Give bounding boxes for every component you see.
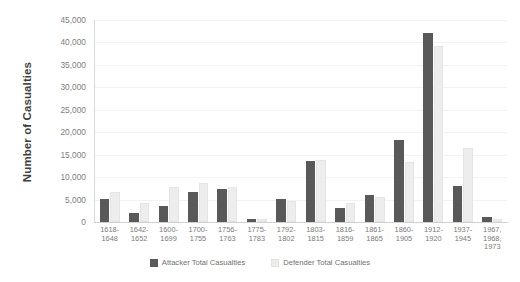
bar-defender[interactable] — [375, 197, 385, 222]
x-axis-tick-label: 1967, 1968, 1973 — [478, 226, 507, 252]
y-axis-tick-label: 25,000 — [0, 106, 86, 114]
attacker-swatch — [150, 259, 158, 267]
casualties-bar-chart: Number of Casualties 45,00040,00035,0003… — [0, 0, 520, 282]
x-axis-tick-label: 1860- 1905 — [389, 226, 418, 243]
bar-defender[interactable] — [463, 148, 473, 223]
bar-defender[interactable] — [110, 192, 120, 222]
y-axis-tick-label: 40,000 — [0, 38, 86, 46]
x-axis-tick-label: 1912- 1920 — [419, 226, 448, 243]
bar-attacker[interactable] — [129, 213, 139, 222]
bar-defender[interactable] — [169, 187, 179, 222]
legend-label: Defender Total Casualties — [283, 258, 370, 267]
legend-item[interactable]: Defender Total Casualties — [271, 258, 370, 267]
bar-defender[interactable] — [346, 203, 356, 222]
bar-attacker[interactable] — [247, 219, 257, 222]
x-axis-tick-label: 1861- 1865 — [360, 226, 389, 243]
x-axis-tick-label: 1792- 1802 — [272, 226, 301, 243]
defender-swatch — [271, 259, 279, 267]
bar-attacker[interactable] — [394, 140, 404, 222]
x-axis-tick-label: 1700- 1755 — [183, 226, 212, 243]
y-axis-tick-label: 35,000 — [0, 61, 86, 69]
bar-attacker[interactable] — [100, 199, 110, 222]
y-axis-tick-label: 30,000 — [0, 83, 86, 91]
legend-item[interactable]: Attacker Total Casualties — [150, 258, 245, 267]
bar-attacker[interactable] — [188, 192, 198, 222]
bar-defender[interactable] — [257, 219, 267, 222]
chart-legend: Attacker Total CasualtiesDefender Total … — [0, 258, 520, 267]
bar-attacker[interactable] — [453, 186, 463, 222]
x-axis-tick-label: 1937- 1945 — [448, 226, 477, 243]
bar-attacker[interactable] — [306, 161, 316, 222]
y-axis-tick-label: 15,000 — [0, 151, 86, 159]
bar-attacker[interactable] — [335, 208, 345, 222]
y-axis-tick-label: 5,000 — [0, 196, 86, 204]
y-axis-tick-label: 0 — [0, 218, 86, 226]
bar-attacker[interactable] — [159, 206, 169, 222]
y-axis-tick-label: 10,000 — [0, 173, 86, 181]
bar-attacker[interactable] — [423, 33, 433, 222]
x-axis-tick-label: 1803- 1815 — [301, 226, 330, 243]
bar-defender[interactable] — [287, 201, 297, 222]
x-axis-tick-label: 1642- 1652 — [124, 226, 153, 243]
bar-defender[interactable] — [140, 203, 150, 222]
y-axis-tick-label: 20,000 — [0, 128, 86, 136]
bar-attacker[interactable] — [482, 217, 492, 222]
bar-defender[interactable] — [405, 162, 415, 222]
bar-defender[interactable] — [199, 183, 209, 222]
bar-defender[interactable] — [228, 187, 238, 222]
y-axis-tick-label: 45,000 — [0, 16, 86, 24]
x-axis-tick-label: 1600- 1699 — [154, 226, 183, 243]
legend-label: Attacker Total Casualties — [162, 258, 245, 267]
x-axis-tick-label: 1816- 1859 — [330, 226, 359, 243]
x-axis-tick-label: 1618- 1648 — [95, 226, 124, 243]
bar-attacker[interactable] — [217, 189, 227, 222]
bar-attacker[interactable] — [365, 195, 375, 222]
plot-area — [95, 20, 507, 222]
x-axis-tick-label: 1756- 1763 — [213, 226, 242, 243]
x-axis-tick-label: 1775- 1783 — [242, 226, 271, 243]
bar-defender[interactable] — [493, 219, 503, 222]
x-axis-line — [94, 222, 508, 223]
bar-defender[interactable] — [316, 160, 326, 222]
bars-layer — [95, 20, 507, 222]
bar-attacker[interactable] — [276, 199, 286, 222]
x-axis-tick-labels: 1618- 16481642- 16521600- 16991700- 1755… — [95, 226, 507, 258]
bar-defender[interactable] — [434, 46, 444, 222]
